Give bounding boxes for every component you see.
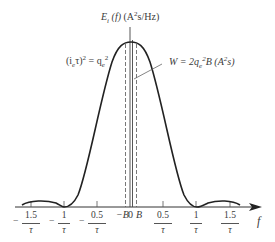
y-axis-label: Ei (f) (A2s/Hz) — [101, 11, 159, 25]
tick-label-1-5: 1.5 τ — [221, 211, 239, 235]
spectrum-plot — [0, 0, 275, 242]
minus-b-label: −B — [116, 210, 129, 220]
peak-value-annotation: (ieτ)2 = qe2 — [66, 55, 108, 69]
tick-label-1: 1 τ — [190, 211, 202, 235]
x-axis-label: f — [257, 215, 260, 227]
tick-label-neg-0-5: − 0.5 τ — [88, 211, 106, 235]
w-leader-line — [134, 64, 162, 79]
energy-annotation: W = 2qe2B (A2s) — [169, 56, 234, 70]
tick-label-0-5: 0.5 τ — [154, 211, 172, 235]
tick-label-neg-1-5: − 1.5 τ — [22, 211, 40, 235]
plus-b-label: B — [136, 210, 142, 220]
zero-label: 0 — [128, 210, 133, 220]
tick-label-neg-1: − 1 τ — [58, 211, 70, 235]
